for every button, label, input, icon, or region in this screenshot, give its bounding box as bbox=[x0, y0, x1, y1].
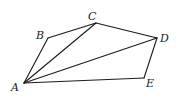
diagonal-ac bbox=[24, 23, 96, 83]
vertex-label-e: E bbox=[145, 77, 154, 90]
side-de bbox=[144, 38, 157, 78]
labels-group: ABCDE bbox=[10, 10, 169, 94]
side-bc bbox=[48, 23, 96, 38]
vertex-label-b: B bbox=[35, 29, 44, 42]
vertex-label-a: A bbox=[10, 81, 19, 94]
pentagon-diagram: ABCDE bbox=[0, 0, 181, 102]
vertex-label-c: C bbox=[88, 10, 97, 23]
side-ea bbox=[24, 78, 144, 83]
vertex-label-d: D bbox=[159, 32, 169, 45]
side-cd bbox=[96, 23, 157, 38]
